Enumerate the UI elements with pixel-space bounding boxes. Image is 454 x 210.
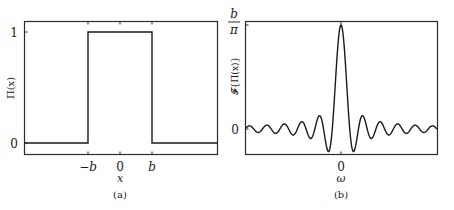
sinc-curve: [246, 25, 437, 152]
axes-frame-a: [25, 22, 218, 155]
ytick-zero-b: 0: [231, 123, 239, 137]
ytick-one: 1: [10, 26, 18, 40]
xlabel-b: ω: [337, 172, 346, 185]
ytick-top-numerator: b: [230, 7, 238, 21]
panel-b: b π 0 0 ω 𝓕{Π(x)} (b): [228, 7, 438, 200]
ylabel-a: Π(x): [5, 77, 16, 99]
xlabel-a: x: [117, 172, 124, 185]
figure: 1 0 −b 0 b x Π(x) (a) b π 0 0 ω 𝓕{Π(x)} …: [0, 0, 454, 210]
rect-function-curve: [25, 32, 218, 143]
caption-a: (a): [113, 189, 127, 200]
panel-a: 1 0 −b 0 b x Π(x) (a): [5, 22, 218, 201]
axes-frame-b: [246, 22, 438, 155]
xtick-b: b: [148, 160, 156, 174]
ylabel-b: 𝓕{Π(x)}: [230, 57, 240, 95]
ytick-top-denominator: π: [229, 23, 239, 37]
caption-b: (b): [334, 189, 348, 200]
ytick-zero: 0: [10, 137, 18, 151]
xtick-neg-b: −b: [79, 160, 97, 174]
